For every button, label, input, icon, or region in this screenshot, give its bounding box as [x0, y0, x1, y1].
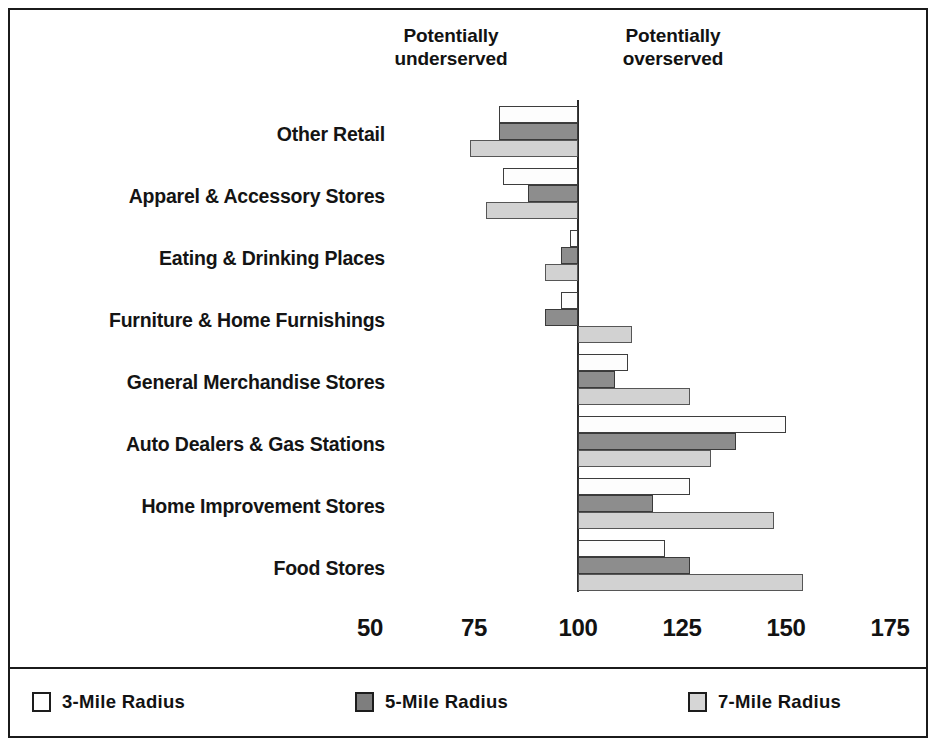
plot-area: Other RetailApparel & Accessory StoresEa… — [10, 96, 926, 602]
bar — [545, 309, 578, 326]
light-gray-square-icon — [688, 692, 707, 712]
bar-group: Other Retail — [10, 106, 926, 168]
bar — [486, 202, 578, 219]
bar — [528, 185, 578, 202]
bar — [545, 264, 578, 281]
category-label: Auto Dealers & Gas Stations — [10, 433, 385, 456]
bar — [578, 450, 711, 467]
x-tick-label: 75 — [434, 614, 514, 642]
bar — [561, 292, 578, 309]
chart-legend: 3-Mile Radius 5-Mile Radius 7-Mile Radiu… — [10, 669, 926, 736]
underserved-annotation: Potentially underserved — [356, 24, 546, 70]
bar — [561, 247, 578, 264]
legend-item-3-mile-radius[interactable]: 3-Mile Radius — [32, 691, 185, 713]
bar — [578, 540, 665, 557]
category-label: Apparel & Accessory Stores — [10, 185, 385, 208]
category-label: Food Stores — [10, 557, 385, 580]
bar — [578, 326, 632, 343]
chart-frame: Potentially underserved Potentially over… — [8, 8, 928, 738]
x-tick-label: 125 — [642, 614, 722, 642]
bar — [499, 106, 578, 123]
bar-group: General Merchandise Stores — [10, 354, 926, 416]
bar — [570, 230, 578, 247]
bar-group: Home Improvement Stores — [10, 478, 926, 540]
bar — [499, 123, 578, 140]
bar-group: Apparel & Accessory Stores — [10, 168, 926, 230]
overserved-annotation: Potentially overserved — [578, 24, 768, 70]
bar — [578, 371, 615, 388]
bar-group: Food Stores — [10, 540, 926, 602]
bar — [578, 557, 690, 574]
category-label: Home Improvement Stores — [10, 495, 385, 518]
legend-item-5-mile-radius[interactable]: 5-Mile Radius — [355, 691, 508, 713]
legend-label: 7-Mile Radius — [718, 691, 841, 713]
category-label: Furniture & Home Furnishings — [10, 309, 385, 332]
bar — [578, 478, 690, 495]
x-tick-label: 150 — [746, 614, 826, 642]
bar — [578, 388, 690, 405]
bar — [578, 495, 653, 512]
white-square-icon — [32, 692, 51, 712]
category-label: General Merchandise Stores — [10, 371, 385, 394]
legend-item-7-mile-radius[interactable]: 7-Mile Radius — [688, 691, 841, 713]
legend-label: 5-Mile Radius — [385, 691, 508, 713]
bar — [578, 433, 736, 450]
bar — [578, 512, 774, 529]
bar-group: Auto Dealers & Gas Stations — [10, 416, 926, 478]
x-tick-label: 175 — [850, 614, 928, 642]
x-tick-label: 100 — [538, 614, 618, 642]
x-axis-tick-labels: 5075100125150175 — [10, 614, 926, 654]
bar — [578, 354, 628, 371]
category-label: Other Retail — [10, 123, 385, 146]
legend-label: 3-Mile Radius — [62, 691, 185, 713]
dark-gray-square-icon — [355, 692, 374, 712]
bar — [503, 168, 578, 185]
category-label: Eating & Drinking Places — [10, 247, 385, 270]
bar-group: Furniture & Home Furnishings — [10, 292, 926, 354]
x-tick-label: 50 — [330, 614, 410, 642]
bar — [470, 140, 578, 157]
bar — [578, 416, 786, 433]
bar — [578, 574, 803, 591]
bar-group: Eating & Drinking Places — [10, 230, 926, 292]
